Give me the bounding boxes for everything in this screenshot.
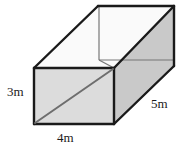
height-dimension-label: 3m [7, 85, 24, 98]
figure-container: 3m 4m 5m [0, 0, 188, 153]
rectangular-prism-diagram [0, 0, 188, 153]
width-dimension-label: 4m [57, 131, 74, 144]
depth-dimension-label: 5m [151, 97, 168, 110]
